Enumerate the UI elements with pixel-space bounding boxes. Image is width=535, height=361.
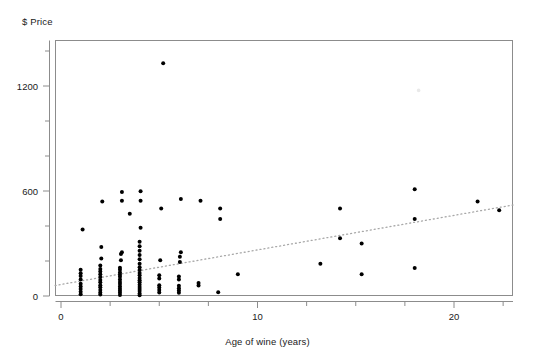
data-point <box>177 274 181 278</box>
data-point <box>158 258 162 262</box>
data-point <box>79 271 83 275</box>
data-point <box>138 244 142 248</box>
data-point <box>118 266 122 270</box>
data-point <box>338 207 342 211</box>
data-point <box>138 253 142 257</box>
data-point <box>360 272 364 276</box>
data-point <box>100 200 104 204</box>
data-point <box>218 217 222 221</box>
data-point <box>138 257 142 261</box>
data-point <box>497 208 501 212</box>
data-point <box>161 61 165 65</box>
data-point <box>120 190 124 194</box>
data-point <box>119 258 123 262</box>
x-tick-label: 10 <box>252 311 263 322</box>
data-point <box>139 189 143 193</box>
data-point <box>138 240 142 244</box>
data-point <box>318 262 322 266</box>
data-point <box>178 255 182 259</box>
data-point <box>120 199 124 203</box>
data-point <box>476 200 480 204</box>
plot-canvas: 01020 06001200 <box>0 0 535 361</box>
data-point <box>236 272 240 276</box>
data-point <box>79 277 83 281</box>
data-point <box>99 245 103 249</box>
trend-line <box>55 205 513 286</box>
data-point <box>216 290 220 294</box>
data-point <box>98 263 102 267</box>
data-point <box>128 212 132 216</box>
y-tick-label: 0 <box>33 291 38 302</box>
data-point <box>413 217 417 221</box>
faint-artifact <box>417 89 421 93</box>
data-point <box>79 282 83 286</box>
data-point <box>139 199 143 203</box>
data-point <box>138 265 142 269</box>
data-point <box>138 249 142 253</box>
y-tick-label: 600 <box>22 186 38 197</box>
data-point <box>179 250 183 254</box>
data-point <box>177 284 181 288</box>
data-point <box>178 260 182 264</box>
data-point <box>338 236 342 240</box>
data-point <box>157 273 161 277</box>
data-point <box>413 187 417 191</box>
data-point <box>360 242 364 246</box>
data-point <box>157 283 161 287</box>
data-point <box>218 207 222 211</box>
x-tick-label: 0 <box>58 311 63 322</box>
data-point <box>179 197 183 201</box>
data-point <box>79 268 83 272</box>
plot-frame <box>56 41 513 296</box>
data-point <box>413 266 417 270</box>
y-tick-label: 1200 <box>17 81 38 92</box>
data-point <box>98 267 102 271</box>
data-point <box>159 207 163 211</box>
y-axis-ticks: 06001200 <box>17 41 50 302</box>
data-point <box>138 262 142 266</box>
x-axis-ticks: 01020 <box>56 302 514 323</box>
data-point <box>81 228 85 232</box>
trend-line-path <box>55 205 513 286</box>
data-point <box>99 256 103 260</box>
data-point <box>139 226 143 230</box>
wine-price-scatter-chart: $ Price Age of wine (years) 01020 060012… <box>0 0 535 361</box>
data-point <box>199 199 203 203</box>
x-tick-label: 20 <box>449 311 460 322</box>
data-point <box>120 250 124 254</box>
faint-artifacts <box>417 89 421 93</box>
data-points <box>79 61 502 297</box>
data-point <box>197 281 201 285</box>
